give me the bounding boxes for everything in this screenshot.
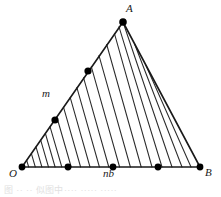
caption-fragment: 图 ·· ·· 似图中···· ····· ····· (4, 183, 117, 196)
hatch-line (77, 88, 100, 167)
hatch-line (36, 147, 42, 167)
label-side-m: m (42, 88, 50, 99)
hatch-line (84, 78, 109, 167)
hatch-line (27, 160, 29, 167)
vertex-dot-A (119, 18, 127, 26)
hatch-line (41, 140, 49, 167)
vertex-dot-B (197, 164, 204, 171)
label-origin-o: O (9, 168, 17, 179)
label-baseline-nb: nb (103, 168, 114, 179)
edge-OA (22, 22, 123, 167)
hatch-line (70, 97, 90, 167)
base-dot (155, 164, 162, 171)
hatch-line (119, 27, 162, 167)
hatch-line (107, 45, 142, 168)
label-apex-a: A (126, 3, 133, 14)
hatch-line (64, 107, 81, 167)
caption-strip: 图 ·· ·· 似图中···· ····· ····· (0, 183, 221, 197)
hatch-line (50, 127, 62, 167)
figure-root: A m O nb B 图 ·· ·· 似图中···· ····· ····· (0, 0, 221, 197)
side-dot (84, 67, 91, 74)
label-vertex-b: B (205, 167, 212, 178)
base-dot (65, 164, 72, 171)
hatch-line (146, 66, 191, 168)
hatch-line (57, 117, 71, 167)
hatch-line (135, 44, 183, 167)
hatch-line (123, 22, 172, 167)
hatch-group (27, 22, 191, 167)
side-dot (51, 116, 58, 123)
hatch-line (31, 154, 35, 167)
vertex-dot-O (19, 164, 26, 171)
